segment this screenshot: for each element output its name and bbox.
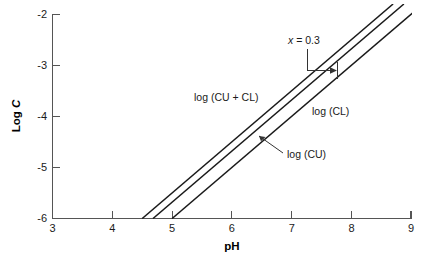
chart-plot-area: -2 -3 -4 -5 -6 3 4 5 6 7 8 9 pH Log C x … [0,0,424,262]
annotation-x-equals-label: x = 0.3 [287,34,320,46]
x-tick-label-3: 3 [49,222,55,234]
y-tick-label--4: -4 [37,110,47,122]
y-tick-label--5: -5 [37,161,47,173]
x-axis-title: pH [224,240,239,252]
series-label-log-cu-plus-cl: log (CU + CL) [194,91,258,103]
y-axis-title: Log C [10,99,22,132]
y-axis-title-group: Log C [10,99,22,132]
series-label-log-cu-group: log (CU) [259,136,326,160]
x-tick-label-5: 5 [169,222,175,234]
series-label-log-cl: log (CL) [312,105,349,117]
annotation-x-value: = 0.3 [293,34,320,46]
data-line-log-cl [153,4,404,219]
data-line-log-cu-plus-cl [142,4,393,219]
y-tick-label--6: -6 [37,212,47,224]
y-tick-label--2: -2 [37,8,47,20]
y-tick-label--3: -3 [37,59,47,71]
y-axis-title-log: Log [10,108,22,132]
y-axis-title-c: C [10,99,22,108]
data-series-group [142,4,423,219]
x-tick-label-9: 9 [408,222,414,234]
x-tick-label-4: 4 [109,222,115,234]
annotation-leader-arrowhead [330,67,337,74]
x-tick-label-7: 7 [289,222,295,234]
series-label-log-cu: log (CU) [287,148,326,160]
chart-figure: -2 -3 -4 -5 -6 3 4 5 6 7 8 9 pH Log C x … [0,0,424,262]
x-tick-label-6: 6 [229,222,235,234]
x-tick-label-8: 8 [348,222,354,234]
